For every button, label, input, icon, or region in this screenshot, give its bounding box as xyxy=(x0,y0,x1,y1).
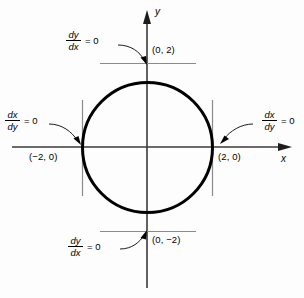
annotation-left-dxdy: dx dy = 0 xyxy=(5,110,37,132)
fraction-right-denominator: dy xyxy=(262,121,276,131)
y-axis xyxy=(143,10,151,288)
fraction-top-numerator: dy xyxy=(66,30,80,40)
leader-arrow-left xyxy=(49,124,81,145)
fraction-left: dx dy xyxy=(5,110,20,132)
x-axis xyxy=(12,143,292,151)
fraction-bottom: dy dx xyxy=(68,236,83,258)
annotation-bottom-dydx: dy dx = 0 xyxy=(68,236,100,258)
point-label-top: (0, 2) xyxy=(152,45,175,55)
annotation-top-dydx: dy dx = 0 xyxy=(66,30,98,52)
fraction-bottom-denominator: dx xyxy=(68,247,82,257)
point-label-left: (−2, 0) xyxy=(29,152,57,162)
annotation-right-dxdy: dx dy = 0 xyxy=(262,110,294,132)
fraction-bottom-numerator: dy xyxy=(68,236,82,246)
fraction-top: dy dx xyxy=(66,30,81,52)
math-diagram-circle: y x (0, 2) (2, 0) (0, −2) (−2, 0) dy dx … xyxy=(0,0,304,298)
fraction-left-denominator: dy xyxy=(5,121,19,131)
y-axis-label: y xyxy=(155,7,160,17)
fraction-top-denominator: dx xyxy=(66,41,80,51)
annotation-bottom-equals: = 0 xyxy=(87,241,100,252)
fraction-right-numerator: dx xyxy=(262,110,276,120)
fraction-right: dx dy xyxy=(262,110,277,132)
annotation-right-equals: = 0 xyxy=(281,115,294,126)
x-axis-label: x xyxy=(281,154,286,164)
point-label-right: (2, 0) xyxy=(218,152,241,162)
point-label-bottom: (0, −2) xyxy=(152,235,180,245)
leader-arrow-bottom xyxy=(120,230,147,249)
annotation-left-equals: = 0 xyxy=(24,115,37,126)
leader-arrow-top xyxy=(118,45,147,65)
leader-arrow-right xyxy=(220,124,253,144)
fraction-left-numerator: dx xyxy=(5,110,19,120)
annotation-top-equals: = 0 xyxy=(85,35,98,46)
